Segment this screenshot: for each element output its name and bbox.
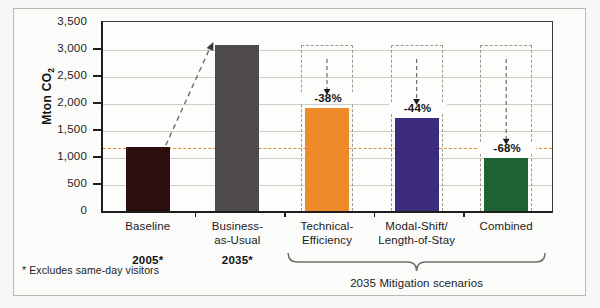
reduction-label: -44%: [389, 102, 447, 114]
y-axis-tick-label: 3,500: [17, 15, 87, 27]
y-axis-tick: [93, 102, 101, 104]
y-axis-tick-label: 3,000: [17, 42, 87, 54]
footnote: * Excludes same-day visitors: [22, 264, 159, 276]
y-axis-tick-label: 2,500: [17, 69, 87, 81]
reduction-label: -68%: [478, 142, 536, 154]
category-label-line: Combined: [451, 220, 561, 234]
y-axis-tick: [93, 75, 101, 77]
group-label: 2035*: [187, 254, 287, 266]
chart-figure: Mton CO2 05001,0001,5002,0002,5003,0003,…: [0, 0, 600, 308]
brace-label: 2035 Mitigation scenarios: [307, 277, 527, 289]
bar[interactable]: [395, 118, 439, 211]
y-axis-tick: [93, 156, 101, 158]
bar[interactable]: [484, 158, 528, 211]
bar[interactable]: [305, 108, 349, 211]
x-axis-tick: [284, 211, 286, 217]
y-axis-tick-label: 500: [17, 177, 87, 189]
y-axis-tick-label: 1,500: [17, 123, 87, 135]
y-axis-tick: [93, 183, 101, 185]
x-axis-tick: [463, 211, 465, 217]
reduction-label: -38%: [299, 92, 357, 104]
x-axis-tick: [374, 211, 376, 217]
y-axis-tick-label: 0: [17, 204, 87, 216]
y-axis-tick: [93, 129, 101, 131]
bar[interactable]: [215, 45, 259, 211]
category-label-line: Length-of-Stay: [362, 234, 472, 248]
y-axis-tick: [93, 48, 101, 50]
x-axis-tick: [195, 211, 197, 217]
y-axis-tick-label: 2,000: [17, 96, 87, 108]
bar[interactable]: [126, 147, 170, 211]
category-label: Combined: [451, 220, 561, 234]
y-axis-tick-label: 1,000: [17, 150, 87, 162]
